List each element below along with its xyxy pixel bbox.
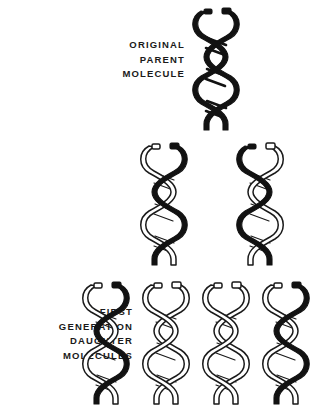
- helix-terminus-top: [94, 282, 121, 288]
- helix-terminus-top: [214, 282, 241, 288]
- generation-row-first: FIRST GENERATION DAUGHTER MOLECULES: [0, 137, 325, 274]
- helix-terminus-top: [248, 143, 275, 149]
- dna-replication-figure: ORIGINAL PARENT MOLECULE: [0, 0, 325, 412]
- helix-terminus-top: [152, 143, 179, 149]
- dna-molecule-second-2: [142, 280, 194, 406]
- helix-terminus-top: [204, 8, 231, 14]
- label-line: ORIGINAL: [0, 38, 185, 53]
- generation-row-second: SECOND GENERATION DAUGHTER MOLECULES: [0, 274, 325, 412]
- label-line: MOLECULE: [0, 67, 185, 82]
- dna-helix-graphic: [142, 280, 194, 406]
- dna-molecule-parent-1: [192, 6, 244, 132]
- dna-helix-graphic: [140, 141, 192, 267]
- dna-molecule-first-2: [236, 141, 288, 267]
- generation-row-parent: ORIGINAL PARENT MOLECULE: [0, 0, 325, 137]
- dna-helix-graphic: [236, 141, 288, 267]
- label-line: PARENT: [0, 53, 185, 68]
- dna-molecule-second-1: [82, 280, 134, 406]
- dna-molecule-first-1: [140, 141, 192, 267]
- dna-helix-graphic: [192, 6, 244, 132]
- dna-helix-graphic: [262, 280, 314, 406]
- dna-molecule-second-3: [202, 280, 254, 406]
- dna-helix-graphic: [202, 280, 254, 406]
- label-original-parent-molecule: ORIGINAL PARENT MOLECULE: [0, 38, 185, 82]
- dna-helix-graphic: [82, 280, 134, 406]
- helix-terminus-top: [274, 282, 301, 288]
- dna-molecule-second-4: [262, 280, 314, 406]
- helix-terminus-top: [154, 282, 181, 288]
